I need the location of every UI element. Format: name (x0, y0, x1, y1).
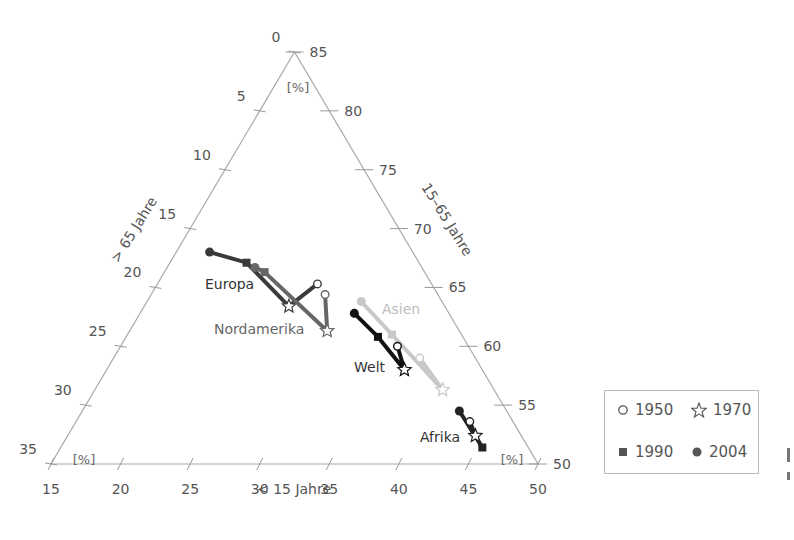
left-axis-title: > 65 Jahre (107, 194, 160, 265)
unit-label: [%] (287, 80, 310, 95)
axis-labels: 1520253035404550051015202530358580757065… (19, 29, 571, 497)
marker-1950 (466, 418, 474, 426)
legend-item-1990: 1990 (617, 443, 673, 461)
bottom-tick-label: 20 (112, 481, 130, 497)
region-label-welt: Welt (354, 359, 386, 375)
left-tick-label: 10 (193, 147, 211, 163)
legend-item-1950: 1950 (617, 401, 673, 419)
marker-2004 (205, 248, 214, 257)
legend-label-2004: 2004 (709, 443, 747, 461)
marker-1990 (388, 331, 396, 339)
right-tick-label: 85 (310, 44, 328, 60)
legend-label-1990: 1990 (635, 443, 673, 461)
region-label-nordamerika: Nordamerika (214, 321, 304, 337)
region-label-afrika: Afrika (420, 429, 460, 445)
right-tick-label: 70 (414, 221, 432, 237)
marker-1950 (416, 354, 424, 362)
legend-label-1950: 1950 (635, 401, 673, 419)
legend: 1950 1970 1990 2004 (604, 390, 759, 474)
marker-2004 (350, 309, 359, 318)
unit-label: [%] (501, 452, 524, 467)
legend-item-1970: 1970 (691, 401, 751, 419)
marker-1990 (242, 259, 250, 267)
marker-1950 (394, 342, 402, 350)
region-label-europa: Europa (205, 276, 254, 292)
marker-1950 (314, 280, 322, 288)
marker-2004 (455, 407, 464, 416)
left-tick-label: 25 (89, 323, 107, 339)
marker-1950 (321, 291, 329, 299)
right-tick-label: 65 (449, 279, 467, 295)
marker-1990 (478, 444, 486, 452)
bottom-tick-label: 15 (42, 481, 60, 497)
legend-label-1970: 1970 (713, 401, 751, 419)
marker-1990 (261, 268, 269, 276)
bottom-tick-label: 25 (181, 481, 199, 497)
cropped-edge-mark (787, 472, 790, 480)
bottom-tick-label: 40 (390, 481, 408, 497)
right-axis-title: 15–65 Jahre (419, 180, 476, 259)
open-circle-icon (617, 404, 629, 416)
unit-label: [%] (73, 452, 96, 467)
cropped-edge-mark (787, 448, 790, 462)
right-tick-label: 55 (518, 397, 536, 413)
marker-2004 (357, 297, 366, 306)
left-tick-label: 30 (54, 382, 72, 398)
legend-item-2004: 2004 (691, 443, 747, 461)
left-tick-label: 35 (19, 441, 37, 457)
marker-1990 (374, 333, 382, 341)
bottom-tick-label: 50 (529, 481, 547, 497)
right-tick-label: 50 (553, 456, 571, 472)
bottom-tick-label: 45 (460, 481, 478, 497)
left-tick-label: 0 (272, 29, 281, 45)
marker-2004 (250, 263, 259, 272)
left-tick-label: 20 (124, 264, 142, 280)
filled-square-icon (617, 446, 629, 458)
right-tick-label: 80 (344, 103, 362, 119)
right-tick-label: 75 (379, 162, 397, 178)
bottom-axis-title: < 15 Jahre (257, 481, 331, 497)
left-tick-label: 15 (158, 206, 176, 222)
right-tick-label: 60 (483, 338, 501, 354)
region-label-asien: Asien (382, 301, 420, 317)
open-star-icon (691, 402, 707, 418)
filled-circle-icon (691, 446, 703, 458)
left-tick-label: 5 (237, 88, 246, 104)
